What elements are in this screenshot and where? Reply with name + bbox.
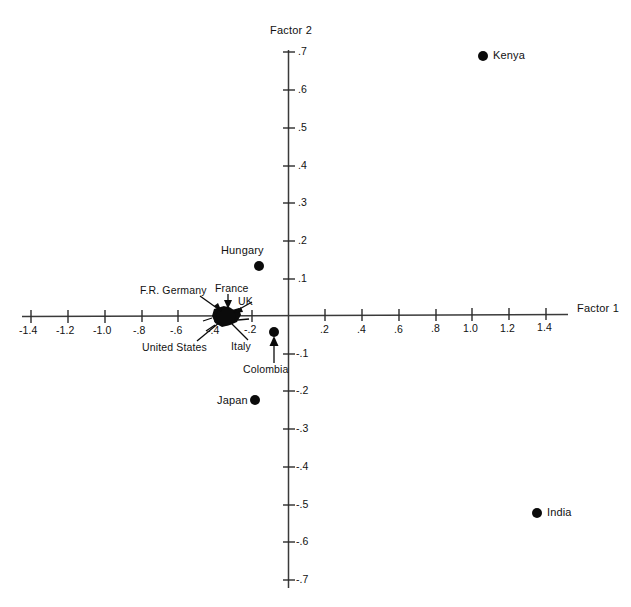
y-tick-label: .5 <box>298 122 307 133</box>
point-label-fr-germany: F.R. Germany <box>140 285 207 296</box>
data-point-india <box>532 508 542 518</box>
point-label-united-states: United States <box>142 342 207 353</box>
colombia-leader <box>270 336 279 363</box>
point-label-kenya: Kenya <box>493 50 525 61</box>
scatter-plot-figure: -1.4 -1.2 -1.0 -.8 -.6 -.4 -.2 .2 .4 .6 … <box>0 0 631 607</box>
y-tick-label: .7 <box>298 46 307 57</box>
x-tick-label: .6 <box>394 324 403 335</box>
point-label-india: India <box>547 507 572 518</box>
x-tick-label: -.2 <box>244 324 257 335</box>
data-point-kenya <box>478 51 488 61</box>
y-tick-label: -.2 <box>296 385 309 396</box>
x-tick-label: .4 <box>357 324 366 335</box>
point-label-uk: UK <box>238 296 253 307</box>
data-point-japan <box>250 395 260 405</box>
x-tick-label: 1.4 <box>537 322 552 333</box>
point-label-colombia: Colombia <box>243 364 289 375</box>
data-point-hungary <box>254 261 264 271</box>
y-tick-label: .2 <box>298 235 307 246</box>
y-tick-label: .1 <box>298 273 307 284</box>
x-tick-label: 1.0 <box>463 323 478 334</box>
y-tick-label: .6 <box>298 84 307 95</box>
x-axis-line <box>22 315 568 317</box>
data-point-colombia <box>269 327 279 337</box>
x-tick-label: -1.0 <box>93 325 112 336</box>
x-tick-label: -1.4 <box>19 325 38 336</box>
x-tick-label: -.4 <box>207 325 220 336</box>
y-tick-label: -.3 <box>296 423 309 434</box>
x-tick-label: .2 <box>320 324 329 335</box>
y-tick-label: -.7 <box>296 574 309 585</box>
x-tick-label: -.6 <box>170 325 183 336</box>
y-tick-label: .3 <box>298 197 307 208</box>
x-tick-label: 1.2 <box>500 323 515 334</box>
point-label-france: France <box>215 283 249 294</box>
y-tick-label: .4 <box>298 160 307 171</box>
point-label-hungary: Hungary <box>221 245 264 256</box>
x-tick-label: -1.2 <box>56 325 75 336</box>
y-axis-title: Factor 2 <box>270 25 312 36</box>
y-tick-label: -.6 <box>296 536 309 547</box>
axis-lines <box>22 50 568 588</box>
point-label-japan: Japan <box>217 395 248 406</box>
x-axis-title: Factor 1 <box>577 303 619 314</box>
x-tick-label: -.8 <box>133 325 146 336</box>
point-label-italy: Italy <box>231 341 251 352</box>
y-tick-label: -.5 <box>296 499 309 510</box>
y-tick-label: -.4 <box>296 461 309 472</box>
y-tick-label: -.1 <box>296 348 309 359</box>
x-tick-label: .8 <box>431 323 440 334</box>
